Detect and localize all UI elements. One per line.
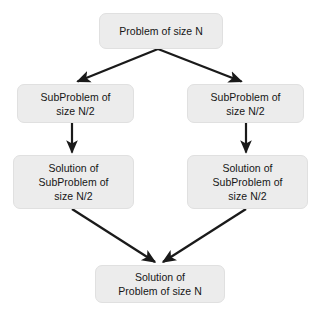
node-label: Solution of SubProblem of size N/2 xyxy=(209,161,285,203)
node-solution-subproblem-left: Solution of SubProblem of size N/2 xyxy=(13,155,134,209)
node-subproblem-right: SubProblem of size N/2 xyxy=(187,84,304,123)
node-label: SubProblem of size N/2 xyxy=(37,90,113,118)
divide-and-conquer-diagram: Problem of size N SubProblem of size N/2… xyxy=(0,0,321,310)
edge-root-to-sub-right xyxy=(158,49,242,82)
node-label: Solution of Problem of size N xyxy=(115,270,205,298)
edge-sol-left-to-final xyxy=(72,209,155,262)
edge-root-to-sub-left xyxy=(78,49,159,82)
node-solution-subproblem-right: Solution of SubProblem of size N/2 xyxy=(187,155,308,209)
node-label: Problem of size N xyxy=(116,24,206,38)
node-label: SubProblem of size N/2 xyxy=(207,90,283,118)
edge-sol-right-to-final xyxy=(163,209,246,262)
node-solution-of-problem: Solution of Problem of size N xyxy=(95,265,225,303)
node-subproblem-left: SubProblem of size N/2 xyxy=(17,84,134,123)
node-label: Solution of SubProblem of size N/2 xyxy=(35,161,111,203)
node-problem-of-size-n: Problem of size N xyxy=(99,13,223,49)
